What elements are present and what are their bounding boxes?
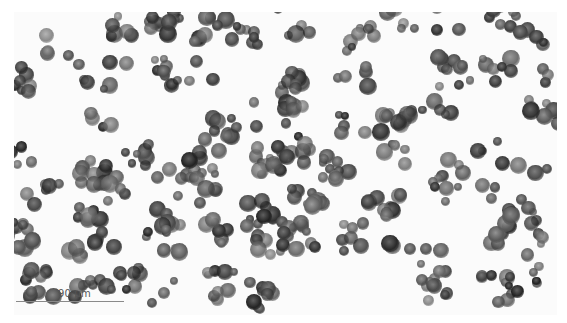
cell [490, 182, 500, 192]
scale-bar-label: 90 µm [58, 288, 91, 299]
cell [26, 156, 37, 167]
cell [249, 97, 260, 108]
cell [230, 268, 238, 276]
cell [430, 182, 440, 192]
cell [400, 145, 409, 154]
cell [475, 178, 490, 193]
cell [84, 107, 97, 120]
cell [27, 197, 42, 212]
cell [423, 295, 434, 306]
cell [363, 24, 374, 35]
cell [318, 172, 329, 183]
cell [358, 126, 371, 139]
cell [426, 279, 439, 292]
cell [380, 209, 393, 222]
cell [452, 23, 466, 37]
cell [68, 239, 85, 256]
cell [542, 164, 552, 174]
cell [304, 197, 322, 215]
cell [119, 24, 135, 40]
cell [289, 82, 302, 95]
cell [536, 231, 549, 244]
cell [15, 61, 28, 74]
cell [24, 232, 42, 250]
cell [399, 106, 416, 123]
cell [359, 78, 376, 95]
cell [328, 171, 344, 187]
cell [288, 241, 304, 257]
cell [249, 32, 259, 42]
cell [287, 184, 297, 194]
cell [209, 113, 226, 130]
cell [225, 32, 240, 47]
cell [511, 285, 524, 298]
cell [441, 64, 453, 76]
cell [233, 22, 242, 31]
cell [404, 243, 416, 255]
cell [171, 243, 188, 260]
cell [454, 80, 464, 90]
cell [173, 76, 181, 84]
cell [128, 159, 136, 167]
cell [493, 137, 502, 146]
cell [309, 241, 321, 253]
cell [106, 239, 122, 255]
cell [542, 99, 551, 108]
cell [339, 246, 349, 256]
cell [251, 141, 264, 154]
cell [341, 112, 349, 120]
cell [430, 12, 443, 14]
cell [250, 120, 263, 133]
cell [486, 193, 497, 204]
micrograph-image [14, 12, 557, 315]
cell [522, 102, 540, 120]
cell [542, 69, 554, 81]
cell [381, 235, 398, 252]
cell [119, 56, 134, 71]
cell [372, 123, 390, 141]
cell [102, 55, 117, 70]
cell [410, 24, 419, 33]
cell [207, 163, 218, 174]
cell [157, 65, 170, 78]
cell [162, 162, 177, 177]
cell [244, 277, 256, 289]
cell [339, 220, 348, 229]
cell [103, 117, 119, 133]
cell [277, 226, 291, 240]
cell [353, 238, 369, 254]
cell [256, 209, 271, 224]
cell [73, 59, 84, 70]
cell [80, 207, 98, 225]
cell [279, 149, 295, 165]
cell [348, 43, 356, 51]
cell [431, 24, 443, 36]
cell [211, 143, 227, 159]
cell [121, 148, 130, 157]
cell [492, 296, 505, 309]
cell [435, 82, 444, 91]
cell [476, 270, 488, 282]
cell [143, 139, 154, 150]
cell [502, 207, 520, 225]
cell [440, 290, 450, 300]
cell [357, 217, 370, 230]
cell [334, 126, 348, 140]
cell [521, 248, 535, 262]
cell [381, 110, 393, 122]
cell [296, 100, 309, 113]
cell [170, 277, 178, 285]
cell [114, 12, 122, 20]
cell [197, 180, 214, 197]
cell [26, 286, 37, 297]
cell [417, 260, 425, 268]
cell [158, 287, 171, 300]
cell [466, 76, 475, 85]
cell [80, 75, 95, 90]
cell [420, 243, 432, 255]
cell [184, 76, 195, 87]
cell [495, 156, 510, 171]
cell [192, 145, 207, 160]
cell [39, 28, 54, 43]
cell [143, 227, 154, 238]
